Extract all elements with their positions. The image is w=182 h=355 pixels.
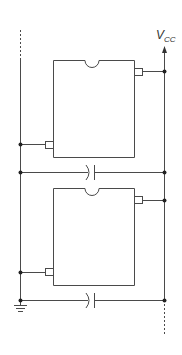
- node-cap1-right: [163, 171, 167, 175]
- node-cap1-left: [19, 171, 23, 175]
- vcc-label-main: V: [156, 28, 164, 42]
- node-ic1-gnd: [19, 143, 23, 147]
- node-ic2-vcc: [163, 199, 167, 203]
- ic-top-gnd-pin: [46, 142, 54, 149]
- vcc-label: VCC: [156, 28, 176, 44]
- node-ic2-gnd: [19, 271, 23, 275]
- ic-top-vcc-pin: [135, 69, 143, 76]
- ic-bottom-gnd-pin: [46, 269, 54, 276]
- decoupling-circuit-diagram: [0, 0, 182, 355]
- node-cap2-left: [19, 299, 23, 303]
- ic-bottom-body: [54, 189, 135, 286]
- vcc-label-subscript: CC: [164, 35, 176, 44]
- node-cap2-right: [163, 299, 167, 303]
- node-ic1-vcc: [163, 70, 167, 74]
- ic-top-body: [54, 61, 135, 158]
- ic-bottom-vcc-pin: [135, 197, 143, 204]
- vcc-arrow-icon: [162, 46, 167, 53]
